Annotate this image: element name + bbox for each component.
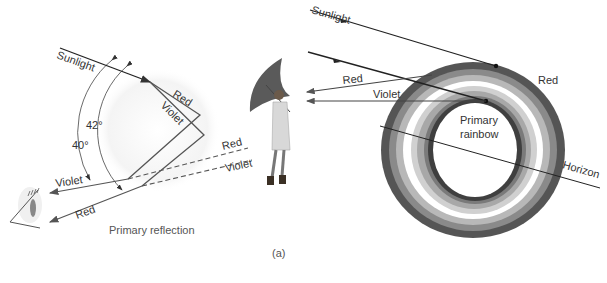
sunlight-label-right: Sunlight: [310, 3, 352, 25]
rainbow-diagram: Sunlight Red Violet 42° 40° Red Violet V…: [0, 0, 607, 283]
red-ray-label: Red: [342, 72, 363, 86]
horizon-label: Horizon: [561, 158, 601, 180]
red-band-label: Red: [538, 74, 558, 86]
violet-dashed-label: Violet: [224, 157, 253, 174]
red-exit-ray: [50, 186, 142, 222]
red-dashed-label: Red: [221, 135, 243, 152]
eye-icon: [10, 187, 42, 228]
sunlight-label: Sunlight: [55, 49, 96, 74]
violet-out-label: Violet: [55, 173, 84, 189]
angle-42-label: 42°: [86, 119, 103, 131]
rainbow-label: rainbow: [460, 128, 499, 140]
panel-title: Primary reflection: [109, 224, 195, 236]
figure-caption: (a): [272, 247, 285, 259]
primary-label: Primary: [460, 114, 498, 126]
person-with-umbrella: [250, 58, 290, 185]
violet-ray-label: Violet: [373, 88, 400, 100]
primary-reflection-panel: Sunlight Red Violet 42° 40° Red Violet V…: [10, 48, 253, 236]
primary-rainbow-panel: Sunlight Red Violet Red Primary rainbow …: [307, 3, 601, 238]
angle-40-label: 40°: [72, 139, 89, 151]
red-out-label: Red: [74, 203, 97, 221]
